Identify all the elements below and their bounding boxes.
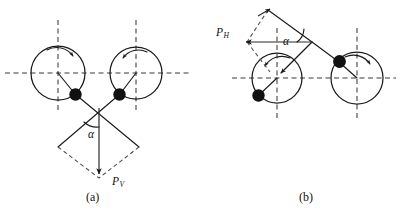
figure-container: PV PH α α (a) (b) [0,0,401,214]
eccentric-mass-left-a [69,88,81,100]
panel-b [232,9,396,118]
rotation-arrow-right-a [123,50,147,58]
force-label-ph-subscript: H [224,31,230,40]
figure-drawing [0,0,401,214]
panel-a [5,20,192,178]
parallelogram-side-left-a [58,147,99,178]
eccentric-mass-right-a [113,88,125,100]
parallelogram-side-lower-b [247,42,270,72]
panel-caption-a: (a) [86,191,99,203]
angle-label-alpha-b: α [283,36,289,48]
force-label-pv: PV [112,176,124,188]
parallelogram-side-upper-b [247,10,268,42]
panel-caption-b: (b) [299,191,313,203]
force-label-ph-symbol: P [216,26,223,38]
top-vertex-arrow-b [258,9,270,16]
force-label-pv-symbol: P [112,175,119,187]
connecting-rod-left-a [75,94,139,147]
force-label-pv-subscript: V [120,180,125,189]
eccentric-mass-right-b [333,55,346,68]
connecting-rod-upper-b [268,10,312,42]
eccentric-mass-left-b [252,89,264,101]
force-label-ph: PH [216,27,229,39]
angle-label-alpha-a: α [88,129,94,141]
parallelogram-side-right-a [99,147,139,178]
angle-arc-b [297,29,304,42]
